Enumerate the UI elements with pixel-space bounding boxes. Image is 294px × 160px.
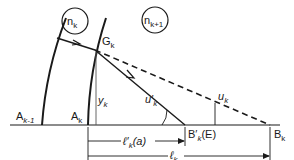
label-b-prime-k: B′k(E) <box>188 128 216 143</box>
label-a-k: Ak <box>71 110 83 125</box>
label-b-k: Bk <box>274 128 286 143</box>
label-g-k: Gk <box>102 35 116 50</box>
dashed-ray <box>95 50 270 125</box>
refracted-ray <box>95 50 185 125</box>
label-l-prime-k: ℓ′k(a) <box>122 135 146 150</box>
label-l-k: ℓk <box>169 149 179 160</box>
label-y-k: yk <box>97 94 109 109</box>
label-n-k: nk <box>67 15 78 30</box>
label-a-k-minus-1: Ak-1 <box>16 110 34 125</box>
ray-direction-arrow-2 <box>126 70 134 78</box>
refraction-diagram: nk nk+1 Gk Ak-1 Ak B′k(E) Bk yk u′k uk ℓ… <box>0 0 294 160</box>
label-n-k-plus-1: nk+1 <box>144 14 164 29</box>
surface-a-k-minus-1 <box>42 18 66 125</box>
angle-arc-u-prime-k <box>162 110 167 125</box>
label-u-prime-k: u′k <box>145 93 158 108</box>
